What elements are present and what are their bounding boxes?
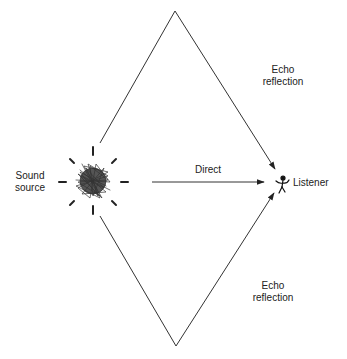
sound-source-label-line2: source [10, 182, 50, 194]
sound-source-label: Sound source [10, 170, 50, 194]
echo-bottom-label-line2: reflection [240, 292, 306, 304]
direct-label: Direct [186, 164, 230, 176]
sound-source-icon [59, 147, 128, 214]
sound-source-label-line1: Sound [10, 170, 50, 182]
echo-top-label-line1: Echo [250, 64, 316, 76]
listener-label-text: Listener [293, 177, 329, 188]
echo-top-label-line2: reflection [250, 76, 316, 88]
echo-bottom-label: Echo reflection [240, 280, 306, 304]
echo-path-top [100, 11, 275, 169]
listener-label: Listener [293, 177, 343, 189]
echo-path-bottom [100, 193, 274, 346]
diagram-canvas: Sound source Direct Listener Echo reflec… [0, 0, 347, 359]
listener-icon [276, 176, 289, 193]
direct-label-text: Direct [195, 164, 221, 175]
echo-top-label: Echo reflection [250, 64, 316, 88]
echo-bottom-label-line1: Echo [240, 280, 306, 292]
